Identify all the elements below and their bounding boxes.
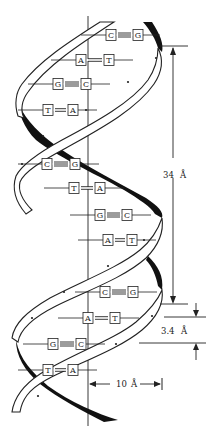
base-pair: AT bbox=[78, 235, 156, 246]
base-pair: GC bbox=[28, 79, 110, 90]
base-letter: G bbox=[97, 211, 103, 220]
base-letter: G bbox=[130, 288, 136, 297]
base-letter: A bbox=[104, 236, 111, 245]
base-letter: G bbox=[72, 160, 78, 169]
base-letter: A bbox=[84, 314, 91, 323]
base-letter: T bbox=[45, 106, 51, 115]
base-letter: A bbox=[69, 106, 76, 115]
base-letter: C bbox=[102, 288, 108, 297]
radius-dimension: 10 Å bbox=[89, 378, 162, 390]
base-pair: TA bbox=[44, 183, 124, 194]
base-letter: G bbox=[135, 31, 141, 40]
dna-double-helix-diagram: CGATGCTACGTAGCATCGATGCTA 34 Å 3.4 Å bbox=[0, 0, 214, 442]
strand-dots bbox=[21, 57, 157, 397]
rise-label: 3.4 Å bbox=[161, 325, 188, 336]
base-letter: C bbox=[44, 160, 50, 169]
base-pair: GC bbox=[70, 210, 151, 221]
pitch-label: 34 Å bbox=[163, 169, 187, 180]
base-letter: C bbox=[83, 80, 89, 89]
base-pair: TA bbox=[18, 105, 97, 116]
base-letter: G bbox=[55, 80, 61, 89]
base-letter: T bbox=[45, 366, 51, 375]
radius-label: 10 Å bbox=[116, 378, 138, 389]
base-letter: A bbox=[96, 184, 103, 193]
base-letter: A bbox=[77, 56, 84, 65]
pitch-dimension: 34 Å bbox=[160, 46, 188, 304]
base-letter: C bbox=[78, 340, 84, 349]
base-letter: T bbox=[106, 56, 112, 65]
base-letter: T bbox=[112, 314, 118, 323]
base-letter: G bbox=[50, 340, 56, 349]
base-letter: C bbox=[124, 211, 130, 220]
base-letter: T bbox=[71, 184, 77, 193]
base-pair: AT bbox=[58, 313, 139, 324]
base-letter: A bbox=[69, 366, 76, 375]
base-letter: C bbox=[108, 31, 114, 40]
base-letter: T bbox=[129, 236, 135, 245]
